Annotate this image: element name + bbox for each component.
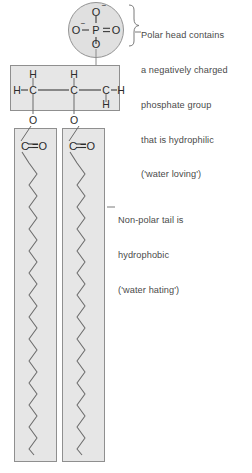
tail-box-left [15, 129, 57, 462]
glycerol-atom-9: O [70, 114, 78, 126]
tail-left-group: C =O [15, 126, 57, 462]
glycerol-atom-6: H [117, 84, 125, 96]
head-annotation-line-5: ('water loving') [141, 169, 228, 181]
tail-right-group: C =O [63, 126, 105, 462]
polar-head-annotation: Polar head contains a negatively charged… [141, 7, 228, 193]
glycerol-atom-2: H [13, 84, 21, 96]
glycerol-atom-5: C [102, 84, 110, 96]
atom-top-oxygen: O [92, 6, 101, 18]
glycerol-atom-7: H [102, 98, 110, 110]
carbonyl-label-left: C =O [21, 140, 47, 152]
tail-annotation-line-1: Non-polar tail is [118, 215, 184, 227]
tail-box-right [63, 129, 105, 462]
glycerol-backbone-group: H H H C C C H H O O [11, 66, 125, 127]
head-annotation-line-3: phosphate group [141, 100, 228, 112]
head-annotation-line-2: a negatively charged [141, 65, 228, 77]
atom-left-oxygen-charge: − [81, 19, 86, 28]
carbonyl-label-right: C =O [69, 140, 95, 152]
glycerol-atom-0: H [29, 68, 37, 80]
glycerol-atom-3: C [29, 84, 37, 96]
head-annotation-line-1: Polar head contains [141, 30, 228, 42]
atom-right-oxygen: O [112, 24, 121, 36]
atom-bottom-oxygen: O [92, 38, 101, 50]
atom-left-oxygen: O [72, 24, 81, 36]
atom-phosphorus: P [92, 24, 99, 36]
glycerol-atom-4: C [70, 84, 78, 96]
tail-annotation-line-3: ('water hating') [118, 285, 184, 297]
glycerol-atom-8: O [29, 114, 37, 126]
head-annotation-line-4: that is hydrophilic [141, 135, 228, 147]
tail-annotation-line-2: hydrophobic [118, 250, 184, 262]
head-annotation-brace [129, 5, 141, 46]
atom-top-oxygen-charge: − [102, 1, 107, 10]
non-polar-tail-annotation: Non-polar tail is hydrophobic ('water ha… [118, 192, 184, 308]
glycerol-atom-1: H [70, 68, 78, 80]
